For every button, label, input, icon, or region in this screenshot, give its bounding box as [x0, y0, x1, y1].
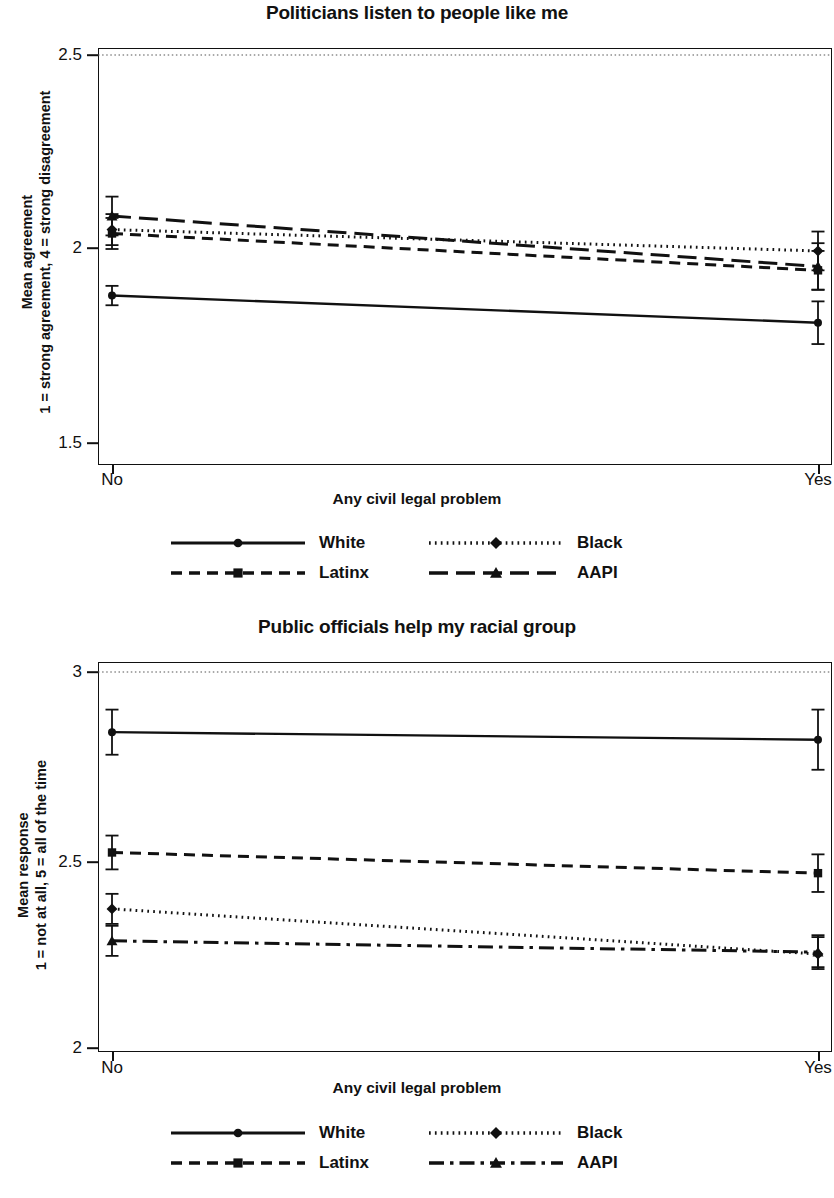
plot-area-2: [98, 662, 832, 1052]
y-tick-mark: [87, 54, 98, 56]
legend-label-white: White: [315, 1123, 423, 1143]
plot-svg-2: [98, 662, 832, 1052]
y-tick-label: 2: [73, 238, 82, 258]
x-tick-label-no: No: [101, 470, 123, 490]
legend-label-aapi: AAPI: [573, 1153, 669, 1173]
figure-root: Politicians listen to people like me Mea…: [0, 0, 834, 1198]
y-tick-label: 2.5: [58, 852, 82, 872]
y-tick-mark: [87, 1047, 98, 1049]
y-axis-label-1-line1: Mean agreement: [18, 52, 36, 452]
legend-key-white[interactable]: [165, 1122, 311, 1144]
chart-title-1: Politicians listen to people like me: [0, 2, 834, 24]
y-tick-label: 1.5: [58, 433, 82, 453]
plot-svg-1: [98, 48, 832, 465]
x-tick-label-no: No: [101, 1058, 123, 1078]
legend-label-latinx: Latinx: [315, 563, 423, 583]
legend-label-black: Black: [573, 533, 669, 553]
y-axis-label-2-line1: Mean response: [14, 680, 32, 1050]
legend-1: WhiteBlackLatinxAAPI: [0, 528, 834, 588]
y-axis-label-2: Mean response 1 = not at all, 5 = all of…: [14, 680, 50, 1050]
y-axis-label-2-line2: 1 = not at all, 5 = all of the time: [32, 680, 50, 1050]
y-axis-label-1: Mean agreement 1 = strong agreement, 4 =…: [18, 52, 54, 452]
x-tick-label-yes: Yes: [804, 470, 832, 490]
y-tick-label: 2.5: [58, 45, 82, 65]
chart-title-2: Public officials help my racial group: [0, 616, 834, 638]
legend-label-white: White: [315, 533, 423, 553]
legend-label-aapi: AAPI: [573, 563, 669, 583]
legend-key-aapi[interactable]: [423, 562, 569, 584]
y-tick-label: 2: [73, 1038, 82, 1058]
y-axis-label-1-line2: 1 = strong agreement, 4 = strong disagre…: [36, 52, 54, 452]
legend-label-black: Black: [573, 1123, 669, 1143]
legend-key-black[interactable]: [423, 532, 569, 554]
legend-label-latinx: Latinx: [315, 1153, 423, 1173]
y-tick-mark: [87, 861, 98, 863]
legend-key-latinx[interactable]: [165, 1152, 311, 1174]
legend-key-black[interactable]: [423, 1122, 569, 1144]
y-tick-label: 3: [73, 662, 82, 682]
x-axis-title-2: Any civil legal problem: [0, 1079, 834, 1097]
x-axis-title-1: Any civil legal problem: [0, 490, 834, 508]
legend-key-aapi[interactable]: [423, 1152, 569, 1174]
legend-key-latinx[interactable]: [165, 562, 311, 584]
y-tick-mark: [87, 247, 98, 249]
legend-key-white[interactable]: [165, 532, 311, 554]
y-tick-mark: [87, 671, 98, 673]
plot-area-1: [98, 48, 832, 465]
legend-2: WhiteBlackLatinxAAPI: [0, 1118, 834, 1178]
x-tick-label-yes: Yes: [804, 1058, 832, 1078]
chart-panel-politicians: Politicians listen to people like me Mea…: [0, 0, 834, 600]
y-tick-mark: [87, 442, 98, 444]
chart-panel-public-officials: Public officials help my racial group Me…: [0, 600, 834, 1198]
